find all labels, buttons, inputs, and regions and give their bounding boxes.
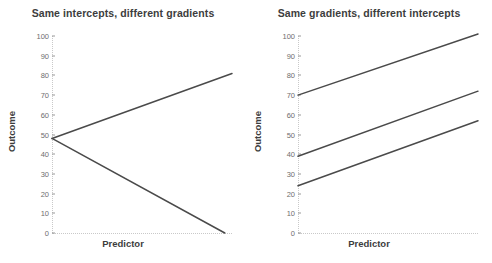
- panel-title-right: Same gradients, different intercepts: [246, 7, 492, 19]
- y-axis-label-left-text: Outcome: [7, 111, 18, 152]
- plot-area-right: 100 90 80 70 60 50 40 30 20 10 0: [298, 30, 478, 236]
- line-positive-gradient: [52, 73, 232, 138]
- y-tick-left-70: 70: [41, 91, 52, 100]
- y-tick-left-50: 50: [41, 130, 52, 139]
- line-mid-intercept: [298, 91, 478, 156]
- panel-title-left: Same intercepts, different gradients: [0, 7, 246, 19]
- y-tick-right-30: 30: [287, 169, 298, 178]
- y-tick-right-90: 90: [287, 51, 298, 60]
- plot-area-left: 100 90 80 70 60 50 40 30 20 10 0: [52, 30, 232, 236]
- y-tick-left-10: 10: [41, 209, 52, 218]
- panel-same-intercepts: Same intercepts, different gradients Out…: [0, 0, 246, 263]
- y-tick-left-0: 0: [45, 229, 52, 238]
- data-lines-right: [298, 30, 478, 236]
- y-tick-right-10: 10: [287, 209, 298, 218]
- y-tick-right-60: 60: [287, 110, 298, 119]
- panel-same-gradients: Same gradients, different intercepts Out…: [246, 0, 492, 263]
- y-tick-right-40: 40: [287, 150, 298, 159]
- line-low-intercept: [298, 121, 478, 186]
- y-tick-right-0: 0: [291, 229, 298, 238]
- y-tick-left-100: 100: [36, 32, 52, 41]
- y-axis-label-left: Outcome: [4, 0, 20, 263]
- line-negative-gradient: [52, 138, 225, 233]
- y-tick-right-70: 70: [287, 91, 298, 100]
- y-tick-right-20: 20: [287, 189, 298, 198]
- y-axis-label-right-text: Outcome: [253, 111, 264, 152]
- y-tick-left-90: 90: [41, 51, 52, 60]
- data-lines-left: [52, 30, 232, 236]
- y-tick-right-50: 50: [287, 130, 298, 139]
- line-high-intercept: [298, 34, 478, 95]
- y-tick-left-40: 40: [41, 150, 52, 159]
- x-axis-label-right: Predictor: [246, 238, 492, 249]
- y-tick-left-20: 20: [41, 189, 52, 198]
- two-panel-line-chart-figure: Same intercepts, different gradients Out…: [0, 0, 492, 263]
- y-tick-left-30: 30: [41, 169, 52, 178]
- y-tick-right-80: 80: [287, 71, 298, 80]
- y-tick-right-100: 100: [282, 32, 298, 41]
- x-axis-label-left: Predictor: [0, 238, 246, 249]
- y-tick-left-80: 80: [41, 71, 52, 80]
- y-tick-left-60: 60: [41, 110, 52, 119]
- y-axis-label-right: Outcome: [250, 0, 266, 263]
